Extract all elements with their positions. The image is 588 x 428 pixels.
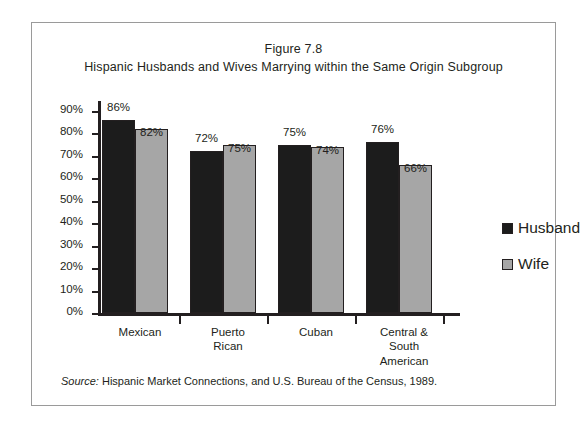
bar-wife-0 <box>135 129 168 313</box>
y-tick-label-80%: 80% <box>60 125 83 137</box>
x-tick-end <box>443 316 445 324</box>
x-axis-line <box>98 313 460 316</box>
category-label-3: Central &SouthAmerican <box>349 325 459 368</box>
category-label-line: South <box>349 339 459 353</box>
y-tick-60%: 60% <box>92 178 99 180</box>
bar-value-husband-0: 86% <box>99 101 139 113</box>
bar-value-wife-1: 75% <box>220 142 260 154</box>
legend-item-husband: Husband <box>502 219 580 237</box>
bar-husband-3 <box>366 142 399 313</box>
chart-legend: Husband Wife <box>502 219 580 291</box>
y-tick-label-40%: 40% <box>60 215 83 227</box>
figure-title: Figure 7.8 Hispanic Husbands and Wives M… <box>32 40 555 76</box>
y-tick-0%: 0% <box>92 313 99 315</box>
figure-frame: Figure 7.8 Hispanic Husbands and Wives M… <box>31 22 556 406</box>
bar-value-wife-3: 66% <box>396 162 436 174</box>
y-tick-label-60%: 60% <box>60 170 83 182</box>
y-tick-50%: 50% <box>92 201 99 203</box>
x-tick-2 <box>267 316 269 324</box>
bar-wife-1 <box>223 145 256 313</box>
y-tick-70%: 70% <box>92 156 99 158</box>
category-label-line: American <box>349 354 459 368</box>
y-tick-label-10%: 10% <box>60 283 83 295</box>
bar-wife-2 <box>311 147 344 313</box>
legend-label-wife: Wife <box>518 255 549 273</box>
figure-title-line-1: Figure 7.8 <box>32 40 555 58</box>
y-tick-label-30%: 30% <box>60 238 83 250</box>
source-note: Source: Hispanic Market Connections, and… <box>61 375 437 387</box>
bar-husband-1 <box>190 151 223 313</box>
y-tick-label-90%: 90% <box>60 103 83 115</box>
y-tick-label-50%: 50% <box>60 193 83 205</box>
category-label-line: Central & <box>349 325 459 339</box>
legend-swatch-husband-icon <box>502 223 513 234</box>
y-tick-80%: 80% <box>92 133 99 135</box>
bar-husband-0 <box>102 120 135 313</box>
y-tick-label-70%: 70% <box>60 148 83 160</box>
category-label-line: Rican <box>173 339 283 353</box>
y-tick-20%: 20% <box>92 268 99 270</box>
bar-value-wife-0: 82% <box>132 126 172 138</box>
bar-wife-3 <box>399 165 432 313</box>
y-tick-label-20%: 20% <box>60 260 83 272</box>
y-tick-30%: 30% <box>92 246 99 248</box>
bar-value-husband-3: 76% <box>363 123 403 135</box>
figure-title-line-2: Hispanic Husbands and Wives Marrying wit… <box>32 58 555 76</box>
legend-swatch-wife-icon <box>502 259 513 270</box>
y-tick-10%: 10% <box>92 291 99 293</box>
x-tick-3 <box>355 316 357 324</box>
source-prefix: Source: <box>61 375 99 387</box>
bar-value-husband-2: 75% <box>275 126 315 138</box>
chart-plot-area: 0%10%20%30%40%50%60%70%80%90% 86%82%72%7… <box>98 101 460 316</box>
legend-item-wife: Wife <box>502 255 580 273</box>
legend-label-husband: Husband <box>518 219 580 237</box>
bar-husband-2 <box>278 145 311 313</box>
y-tick-label-0%: 0% <box>66 305 83 317</box>
bar-value-wife-2: 74% <box>308 144 348 156</box>
x-tick-1 <box>179 316 181 324</box>
y-tick-40%: 40% <box>92 223 99 225</box>
source-text: Hispanic Market Connections, and U.S. Bu… <box>99 375 437 387</box>
